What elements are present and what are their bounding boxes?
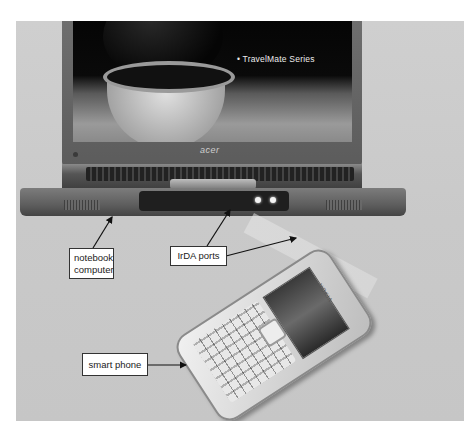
callout-arrows — [0, 0, 464, 434]
callout-notebook-computer: notebook computer — [69, 248, 114, 279]
callout-irda-ports: IrDA ports — [170, 246, 227, 266]
callout-smart-phone: smart phone — [82, 353, 148, 376]
